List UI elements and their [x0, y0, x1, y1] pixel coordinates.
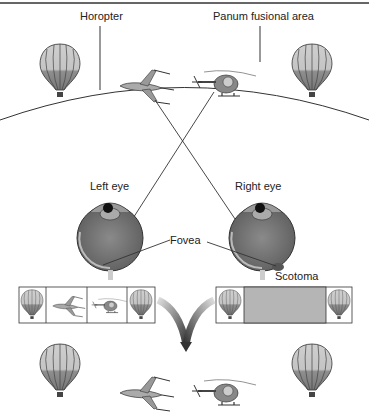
- airplane-top: [120, 70, 174, 104]
- right-eye-illustration: [229, 203, 295, 280]
- diagram-canvas: [0, 0, 369, 415]
- scotoma-label: Scotoma: [275, 270, 318, 282]
- left-percept-strip: [19, 287, 155, 323]
- left-eye-label: Left eye: [90, 180, 129, 192]
- right-percept-strip: [216, 287, 352, 323]
- balloon-left-bottom: [40, 344, 80, 397]
- fovea-label: Fovea: [170, 234, 201, 246]
- left-eye-illustration: [77, 203, 143, 280]
- panum-label: Panum fusional area: [213, 10, 314, 22]
- helicopter-bottom: [192, 380, 256, 405]
- right-eye-label: Right eye: [235, 180, 281, 192]
- horopter-label: Horopter: [80, 10, 123, 22]
- airplane-bottom: [120, 377, 174, 411]
- balloon-left-top: [40, 44, 80, 97]
- balloon-right-top: [292, 44, 332, 97]
- helicopter-top: [192, 71, 256, 96]
- balloon-right-bottom: [292, 344, 332, 397]
- merge-arrow: [158, 300, 214, 352]
